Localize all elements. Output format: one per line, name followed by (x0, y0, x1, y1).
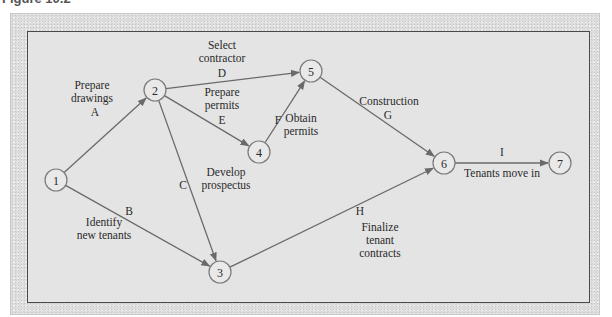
activity-code-label: G (384, 109, 392, 121)
activity-description-label: Construction (359, 95, 419, 107)
activity-code-label: F (275, 114, 281, 126)
event-node-5: 5 (300, 60, 322, 82)
node-number-label: 4 (256, 146, 262, 160)
activity-description-label: Tenants move in (464, 167, 540, 179)
activity-arrow-g (320, 77, 434, 156)
activity-description-label: Identify (86, 216, 123, 229)
activity-description-label: Select (208, 39, 237, 51)
activity-description-label: Obtain (285, 112, 317, 124)
node-number-label: 7 (557, 157, 563, 171)
activity-code-label: B (125, 205, 133, 217)
activity-description-label: Prepare (74, 79, 109, 92)
activity-code-label: E (218, 114, 225, 126)
activity-description-label: permits (205, 99, 240, 112)
activity-description-label: contractor (199, 52, 246, 64)
event-node-1: 1 (45, 169, 67, 191)
node-number-label: 2 (152, 84, 158, 98)
activity-code-label: D (218, 67, 226, 79)
event-node-6: 6 (433, 152, 455, 174)
activity-code-label: C (179, 179, 187, 191)
activity-code-label: I (500, 146, 504, 158)
activity-description-label: contracts (359, 247, 401, 259)
activity-code-label: A (91, 106, 100, 118)
activity-description-label: permits (284, 125, 319, 138)
activity-description-label: drawings (71, 92, 114, 105)
activity-code-label: H (356, 205, 364, 217)
activity-network-diagram: 1234567 APreparedrawingsBIdentifynew ten… (0, 0, 612, 317)
node-number-label: 3 (217, 266, 223, 280)
node-number-label: 6 (441, 157, 447, 171)
event-node-4: 4 (248, 141, 270, 163)
event-node-7: 7 (549, 152, 571, 174)
node-number-label: 1 (53, 174, 59, 188)
activity-description-label: tenant (366, 234, 395, 246)
node-number-label: 5 (308, 65, 314, 79)
activity-arrow-a (64, 98, 146, 173)
activity-description-label: Finalize (361, 221, 398, 233)
event-node-2: 2 (144, 79, 166, 101)
activity-description-label: Prepare (204, 86, 239, 99)
event-node-3: 3 (209, 261, 231, 283)
activity-description-label: Develop (207, 166, 246, 179)
activity-description-label: new tenants (77, 229, 132, 241)
activity-arrow-h (230, 168, 433, 267)
activity-description-label: prospectus (201, 179, 251, 192)
